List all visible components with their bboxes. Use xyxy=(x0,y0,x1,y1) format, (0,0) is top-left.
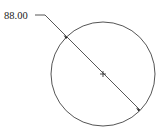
diameter-leader-line xyxy=(35,15,140,110)
center-mark-icon xyxy=(100,71,106,77)
drawing-canvas: 88.00 xyxy=(0,0,166,134)
dimension-label: 88.00 xyxy=(4,10,28,21)
